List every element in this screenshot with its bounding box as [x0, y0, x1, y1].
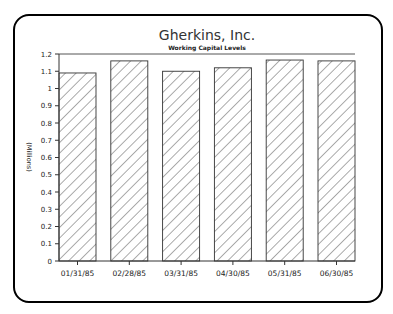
y-tick-label: 0.8: [41, 120, 52, 128]
chart-subtitle: Working Capital Levels: [168, 44, 246, 52]
y-tick-label: 0: [48, 258, 52, 266]
y-tick-label: 0.2: [41, 223, 52, 231]
bar-5: [266, 60, 303, 261]
x-tick-label: 05/31/85: [268, 269, 302, 278]
bar-1: [59, 73, 96, 261]
x-tick-label: 04/30/85: [216, 269, 250, 278]
y-tick-label: 0.9: [41, 102, 52, 110]
y-tick-label: 0.4: [41, 189, 53, 197]
y-tick-label: 0.7: [41, 137, 52, 145]
y-tick-label: 0.1: [41, 240, 52, 248]
chart-title: Gherkins, Inc.: [159, 27, 255, 43]
y-tick-label: 0.6: [41, 154, 53, 162]
x-tick-label: 06/30/85: [320, 269, 354, 278]
x-tick-label: 01/31/85: [61, 269, 95, 278]
plot-area: 00.10.20.30.40.50.60.70.80.911.11.201/31…: [41, 51, 355, 279]
bar-2: [111, 61, 148, 261]
bar-6: [318, 61, 355, 261]
x-tick-label: 03/31/85: [164, 269, 198, 278]
y-tick-label: 0.3: [41, 206, 52, 214]
y-tick-label: 0.5: [41, 171, 52, 179]
bar-4: [214, 68, 251, 261]
x-tick-label: 02/28/85: [112, 269, 146, 278]
bar-chart: Gherkins, Inc. Working Capital Levels (M…: [0, 0, 393, 314]
y-tick-label: 1: [48, 85, 52, 93]
bar-3: [163, 71, 200, 261]
y-tick-label: 1.2: [41, 51, 52, 59]
y-axis-label: (Millions): [25, 142, 33, 171]
y-tick-label: 1.1: [41, 68, 52, 76]
